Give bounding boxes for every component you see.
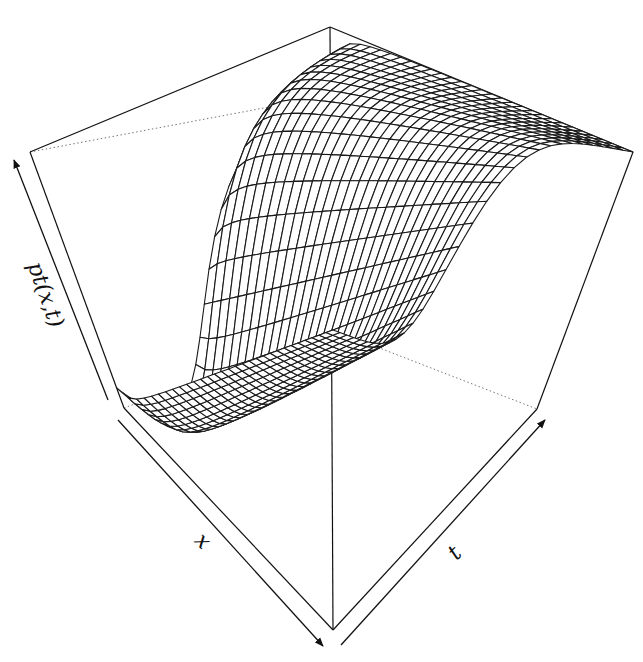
box-edge [537,152,633,409]
box-edge [333,409,537,630]
t-axis-arrow [341,420,545,645]
x-axis-arrow [118,420,323,646]
box-edge [124,408,333,630]
surface-plot [0,0,643,662]
surface-mesh [117,44,633,433]
